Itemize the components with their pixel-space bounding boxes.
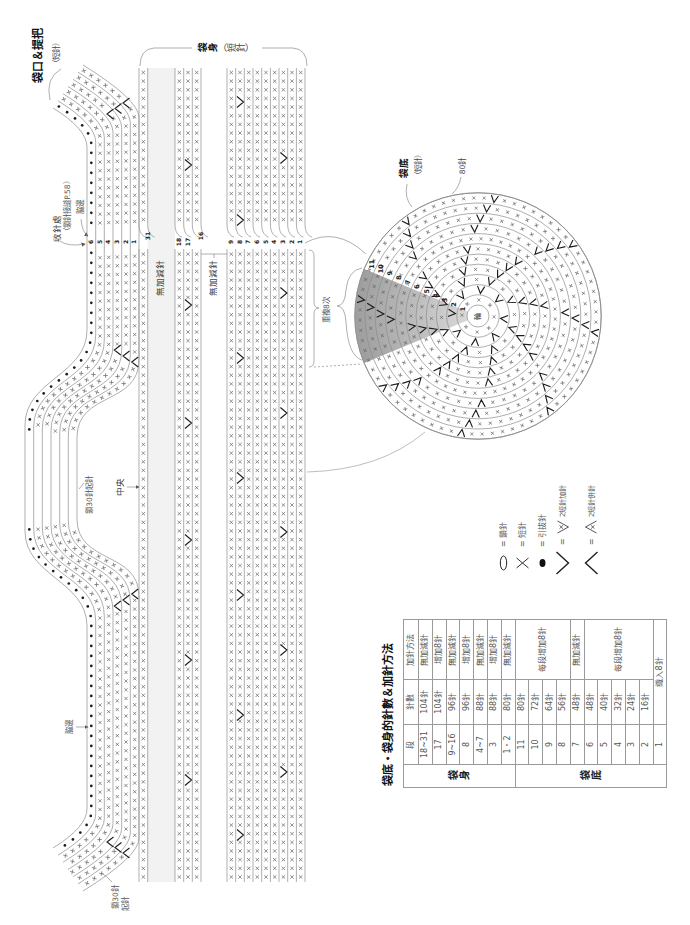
- slip-stitch-dot: [90, 625, 93, 628]
- bottom-chain-label-line2: 起針: [122, 897, 131, 911]
- omitted-rows-gap-fill: [148, 68, 175, 882]
- handle-row-number-label: 4: [104, 240, 111, 244]
- round-cell: 9: [543, 725, 557, 765]
- legend-label: 短針: [518, 522, 528, 538]
- slip-stitch-dot: [90, 181, 93, 184]
- body-row-number-label: 3: [279, 240, 286, 244]
- slip-stitch-dot: [58, 379, 61, 382]
- count-cell: 32針: [612, 680, 626, 725]
- bottom-chain-label-line1: 鎖30針: [112, 885, 121, 909]
- method-cell: 無加減針: [570, 620, 584, 680]
- slip-stitch-dot: [90, 635, 93, 638]
- increase-v-with-cross-icon: [555, 519, 571, 535]
- row1-to-round11-connector: [305, 237, 366, 254]
- slip-stitch-dot: [90, 141, 93, 144]
- slip-stitch-dot: [29, 538, 32, 541]
- method-cell: 增加8針: [460, 620, 474, 680]
- legend-item-single-crochet: = 短針: [515, 465, 531, 575]
- round-cell: 1: [653, 725, 667, 765]
- body-title: 袋身（短針）: [198, 43, 254, 54]
- count-cell: 96針: [446, 680, 460, 725]
- handle-row-number-label: 3: [113, 240, 120, 244]
- slip-stitch-dot: [81, 124, 84, 127]
- slip-stitch-dot: [90, 735, 93, 738]
- table-row: 1織入8針: [653, 620, 667, 788]
- repeat-bracket: [309, 250, 319, 367]
- slip-stitch-dot: [90, 211, 93, 214]
- table-title: 袋底・袋身的針數＆加針方法: [381, 620, 403, 788]
- body-to-bottom-connector: [307, 432, 425, 472]
- slip-stitch-dot: [90, 321, 93, 324]
- count-cell: 104針: [419, 680, 433, 725]
- single-crochet-cross-icon: [515, 551, 531, 575]
- legend-equals: =: [518, 540, 528, 547]
- body-row-number-label: 8: [236, 240, 243, 244]
- legend-item-decrease: = 2短針併針: [584, 465, 600, 575]
- group-label-body: 袋身: [448, 771, 470, 781]
- slip-stitch-dot: [90, 795, 93, 798]
- body-row-number-label: 18: [175, 238, 182, 246]
- bottom-stitch-note: （短針）: [415, 151, 424, 179]
- magic-ring-label: 輪: [473, 313, 482, 320]
- header-method: 加針方法: [404, 620, 419, 680]
- body-title-stitch-note: （短針）: [218, 43, 254, 53]
- body-row-number-label: 31: [144, 232, 151, 240]
- round-cell: 6: [584, 725, 598, 765]
- slip-stitch-dot: [90, 725, 93, 728]
- slip-stitch-dot: [31, 408, 34, 411]
- round-cell: 3: [487, 725, 501, 765]
- mouth-handle-title: 袋口＆提把: [33, 28, 46, 83]
- round-number-label: 8: [395, 275, 403, 280]
- body-row-number-label: 4: [270, 240, 277, 244]
- count-cell: 48針: [584, 680, 598, 725]
- round-cell: 8: [460, 725, 474, 765]
- crochet-pattern-page: 1234567891011輪31181716987654321654321 袋口…: [0, 0, 690, 925]
- round-cell: 1・2: [501, 725, 515, 765]
- symbol-legend: = 鎖針 = 短針 = 引拔針 = 2短針加針 =: [495, 465, 600, 575]
- finish-point-arrow: [60, 241, 85, 245]
- slip-stitch-dot: [90, 695, 93, 698]
- round-number-label: 1: [459, 306, 467, 311]
- slip-stitch-dot: [28, 528, 31, 531]
- table-header-row: 袋身 段 針數 加針方法: [404, 620, 419, 788]
- group-cell-bottom: 袋底: [515, 765, 667, 788]
- slip-stitch-dot: [90, 331, 93, 334]
- slip-stitch-dot: [86, 605, 89, 608]
- round-cell: 9~16: [446, 725, 460, 765]
- slip-stitch-dot: [90, 161, 93, 164]
- side-edge-bottom-label: 脇邊: [66, 720, 75, 734]
- stitch-table-panel: 袋底・袋身的針數＆加針方法 袋身 段 針數 加針方法 18~31104針無加減針…: [381, 620, 663, 788]
- count-cell: 88針: [474, 680, 488, 725]
- body-row-number-label: 6: [253, 240, 260, 244]
- repeat-dotted-line: [314, 364, 362, 367]
- count-cell: 72針: [529, 680, 543, 725]
- slip-stitch-dot: [90, 685, 93, 688]
- round-cell: 2: [639, 725, 653, 765]
- round-number-label: 10: [377, 264, 385, 274]
- round-number-label: 9: [386, 270, 394, 275]
- slip-stitch-dot: [67, 582, 70, 585]
- round-cell: 7: [570, 725, 584, 765]
- increase-v-icon: [555, 551, 571, 575]
- body-row-number-label: 2: [288, 240, 295, 244]
- slip-stitch-dot: [32, 547, 35, 550]
- slip-stitch-dot: [90, 805, 93, 808]
- method-cell: 無加減針: [446, 620, 460, 680]
- slip-stitch-dot: [90, 745, 93, 748]
- slip-stitch-dot: [90, 151, 93, 154]
- legend-equals: =: [587, 538, 597, 545]
- slip-stitch-dot: [90, 665, 93, 668]
- handle-chain-tick: [79, 483, 84, 489]
- count-cell: 64針: [543, 680, 557, 725]
- slip-stitch-dot: [64, 844, 67, 847]
- round-cell: 18~31: [419, 725, 433, 765]
- slip-stitch-dot: [89, 341, 92, 344]
- slip-stitch-dot: [28, 428, 31, 431]
- slip-stitch-dot: [85, 351, 88, 354]
- group-label-bottom: 袋底: [580, 771, 602, 781]
- slip-stitch-dot: [90, 191, 93, 194]
- slip-stitch-dot: [90, 775, 93, 778]
- decrease-inverted-v-icon: [584, 551, 600, 575]
- bottom-title-leader: [406, 184, 412, 207]
- count-cell: 88針: [487, 680, 501, 725]
